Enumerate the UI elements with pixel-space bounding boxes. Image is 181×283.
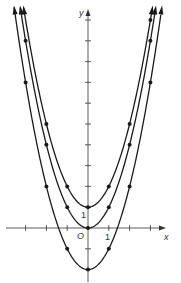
- data-point: [148, 18, 152, 22]
- data-point: [65, 184, 69, 188]
- data-point: [44, 122, 48, 126]
- data-point: [24, 39, 28, 43]
- curve-arrow-icon: [158, 6, 163, 15]
- data-point: [86, 205, 90, 209]
- data-point: [65, 205, 69, 209]
- data-point: [148, 80, 152, 84]
- data-point: [148, 39, 152, 43]
- data-point: [107, 184, 111, 188]
- origin-label: O: [77, 231, 84, 241]
- parabola-curve: [14, 8, 161, 270]
- data-point: [107, 247, 111, 251]
- data-point: [65, 247, 69, 251]
- data-point: [128, 143, 132, 147]
- parabola-graph: y x O 1 1: [0, 0, 181, 283]
- data-point: [107, 205, 111, 209]
- data-point: [86, 268, 90, 272]
- x-tick-label-1: 1: [105, 232, 110, 242]
- data-point: [128, 122, 132, 126]
- curve-arrow-icon: [13, 6, 18, 15]
- x-axis-label: x: [163, 232, 169, 242]
- y-tick-label-1: 1: [81, 210, 86, 220]
- data-point: [24, 80, 28, 84]
- data-point: [128, 184, 132, 188]
- y-axis-label: y: [78, 8, 84, 18]
- data-point: [44, 184, 48, 188]
- y-axis-arrow-icon: [86, 9, 91, 16]
- data-point: [44, 143, 48, 147]
- data-point: [86, 226, 90, 230]
- x-axis-arrow-icon: [159, 226, 166, 231]
- axes: [6, 9, 166, 282]
